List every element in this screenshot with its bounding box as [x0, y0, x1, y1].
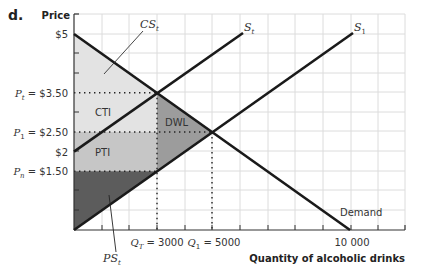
- pti-label: PTI: [95, 147, 110, 158]
- cti-region: [74, 93, 157, 132]
- x-tick-label-qt: QT = 3000: [130, 237, 183, 251]
- s1-curve-label: S1: [354, 21, 366, 36]
- y-axis-title: Price: [42, 10, 71, 21]
- pti-region: [74, 132, 157, 171]
- dwl-label: DWL: [165, 117, 189, 128]
- tax-incidence-chart: d. Price $5 Pt = $3.50 P1 = $2.50 $2 Pn …: [0, 0, 422, 277]
- panel-label: d.: [8, 7, 23, 23]
- ps-label: PSt: [102, 252, 121, 267]
- y-tick-label-pt: Pt = $3.50: [14, 88, 68, 102]
- x-tick-label-10000: 10 000: [335, 237, 370, 248]
- x-tick-label-q1: Q1 = 5000: [188, 237, 241, 251]
- y-tick-label-5: $5: [55, 29, 68, 40]
- cs-label: CSt: [140, 18, 159, 33]
- y-tick-label-2: $2: [55, 147, 68, 158]
- y-tick-label-p1: P1 = $2.50: [12, 127, 68, 141]
- cti-label: CTI: [95, 107, 111, 118]
- demand-curve-label: Demand: [340, 207, 382, 218]
- x-ticks: [102, 225, 378, 230]
- y-tick-label-pn: Pn = $1.50: [12, 166, 68, 180]
- st-curve-label: St: [244, 21, 255, 36]
- x-axis-title: Quantity of alcoholic drinks: [249, 253, 405, 264]
